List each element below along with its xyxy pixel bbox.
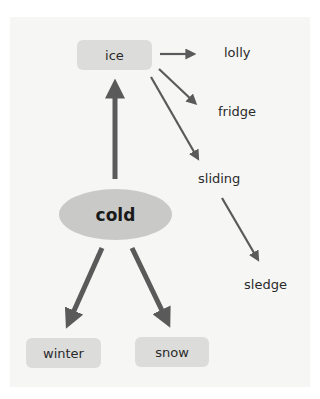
arrow-sliding-to-sledge — [222, 198, 257, 258]
word-sledge: sledge — [244, 277, 287, 292]
arrow-cold-to-winter — [69, 248, 102, 322]
node-ice: ice — [77, 40, 152, 70]
arrow-cold-to-snow — [132, 248, 167, 321]
node-cold-center: cold — [59, 189, 172, 240]
word-fridge: fridge — [218, 104, 256, 119]
word-lolly: lolly — [224, 45, 250, 60]
arrow-ice-to-fridge — [159, 69, 194, 102]
node-winter: winter — [26, 338, 101, 368]
node-snow: snow — [135, 337, 209, 367]
arrow-ice-to-sliding — [151, 77, 197, 157]
word-sliding: sliding — [198, 171, 240, 186]
